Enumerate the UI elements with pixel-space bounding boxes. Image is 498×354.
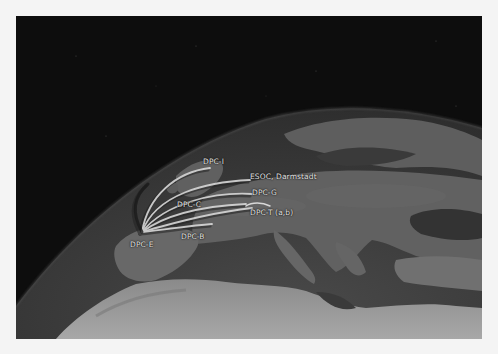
label-dpc-i: DPC-I <box>203 157 224 166</box>
earth-map-graphic <box>16 16 482 339</box>
label-esoc-darmstadt: ESOC, Darmstadt <box>250 172 317 181</box>
label-dpc-c: DPC-C <box>177 200 201 209</box>
label-dpc-t: DPC-T (a,b) <box>250 208 293 217</box>
label-dpc-g: DPC-G <box>252 188 277 197</box>
label-dpc-e: DPC-E <box>130 240 153 249</box>
map-frame: DPC-I ESOC, Darmstadt DPC-G DPC-C DPC-T … <box>16 16 482 339</box>
label-dpc-b: DPC-B <box>181 232 205 241</box>
